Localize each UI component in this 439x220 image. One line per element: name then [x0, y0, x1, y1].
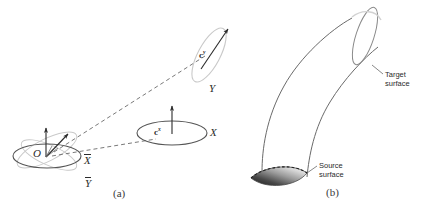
axis-x-bar-text: X [84, 154, 91, 166]
axis-y-bar-label: Y [85, 177, 91, 190]
source-surface-label-line2: surface [319, 170, 344, 179]
origin-ellipse-tilt-a [13, 125, 82, 175]
dashed-ray-to-cx [52, 139, 156, 156]
source-surface-label-line1: Source [319, 161, 344, 170]
caption-panel-a: (a) [113, 187, 125, 199]
vector-cx-label: cx [154, 127, 161, 137]
target-label-leader [372, 65, 383, 74]
target-surface-ellipse [347, 5, 383, 68]
dashed-ray-to-cy [54, 56, 205, 152]
panel-a-group [13, 23, 233, 176]
axis-y-bar-text: Y [85, 177, 91, 189]
figure-canvas [0, 0, 439, 220]
vector-cy-label: cy [199, 50, 205, 60]
tube-edge-right [307, 47, 378, 177]
vector-cy-superscript: y [203, 49, 205, 55]
target-surface-label: Target surface [385, 70, 410, 89]
target-surface-label-line2: surface [385, 79, 410, 88]
source-surface-label: Source surface [319, 161, 344, 180]
origin-faint-ellipses [13, 125, 82, 176]
origin-label: O [33, 148, 41, 160]
vector-cx-superscript: x [158, 126, 161, 132]
caption-panel-b: (b) [326, 186, 339, 198]
axis-x-label: X [210, 127, 217, 139]
panel-b-group [251, 5, 383, 186]
target-surface-label-line1: Target [385, 70, 410, 79]
source-surface-fill [251, 167, 307, 186]
tube-edge-left [262, 18, 352, 172]
axis-y-label: Y [209, 83, 215, 95]
axis-x-bar-label: X [84, 154, 91, 167]
